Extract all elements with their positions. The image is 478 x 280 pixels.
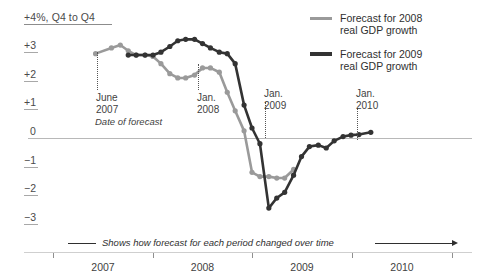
caption-text: Shows how forecast for each period chang… <box>102 237 334 248</box>
data-point <box>158 61 163 66</box>
data-point <box>134 52 139 57</box>
data-point <box>175 75 180 80</box>
data-point <box>257 141 262 146</box>
callout-label-line2: 2008 <box>197 104 219 115</box>
data-point <box>249 125 254 130</box>
data-point <box>208 45 213 50</box>
data-point <box>126 52 131 57</box>
legend-label-2008-line1: Forecast for 2008 <box>340 12 422 24</box>
x-tick-label-2010: 2010 <box>372 261 432 273</box>
data-point <box>282 190 287 195</box>
caption-rule-right <box>375 243 453 244</box>
callout-label-0: June2007 <box>96 92 118 115</box>
callout-label-line2: 2010 <box>356 100 378 111</box>
callout-label-line1: Jan. <box>197 92 216 103</box>
data-point <box>266 174 271 179</box>
callout-dotted-line-1 <box>198 64 199 90</box>
callout-dotted-line-0 <box>97 52 98 90</box>
legend-swatch-2009 <box>310 52 332 56</box>
data-point <box>233 61 238 66</box>
legend-label-2009-line1: Forecast for 2009 <box>340 48 422 60</box>
data-point <box>158 50 163 55</box>
data-point <box>175 38 180 43</box>
caption-arrow-icon <box>452 240 458 246</box>
data-point <box>118 42 123 47</box>
data-point <box>340 134 345 139</box>
data-point <box>192 72 197 77</box>
data-point <box>217 70 222 75</box>
legend-swatch-2008 <box>310 17 332 20</box>
callout-label-line1: Jan. <box>356 88 375 99</box>
callout-label-2: Jan.2009 <box>264 88 286 111</box>
data-point <box>167 44 172 49</box>
date-of-forecast-label: Date of forecast <box>95 116 162 127</box>
data-point <box>241 128 246 133</box>
data-point <box>167 71 172 76</box>
x-tick-label-2008: 2008 <box>173 261 233 273</box>
data-point <box>109 45 114 50</box>
data-point <box>183 75 188 80</box>
data-point <box>274 175 279 180</box>
data-point <box>200 41 205 46</box>
data-point <box>307 144 312 149</box>
callout-dotted-line-3 <box>357 108 358 140</box>
callout-label-1: Jan.2008 <box>197 92 219 115</box>
legend-label-2009-line2: real GDP growth <box>340 60 417 72</box>
data-point <box>332 138 337 143</box>
data-point <box>291 173 296 178</box>
chart-root: +4%, Q4 to Q4+3+2+10−1−2−3 June2007Date … <box>0 0 478 280</box>
data-point <box>348 133 353 138</box>
callout-label-line1: June <box>96 92 118 103</box>
x-axis-rule <box>24 252 472 253</box>
callout-label-line2: 2009 <box>264 100 286 111</box>
data-point <box>183 37 188 42</box>
x-tick-label-2007: 2007 <box>73 261 133 273</box>
x-tick-4 <box>452 253 453 258</box>
legend-label-2008-line2: real GDP growth <box>340 24 417 36</box>
callout-label-3: Jan.2010 <box>356 88 378 111</box>
data-point <box>150 52 155 57</box>
data-point <box>266 205 271 210</box>
callout-label-line2: 2007 <box>96 104 118 115</box>
x-tick-1 <box>153 253 154 258</box>
legend-item-2009: Forecast for 2009 real GDP growth <box>310 48 422 72</box>
data-point <box>241 103 246 108</box>
x-tick-2 <box>252 253 253 258</box>
data-point <box>249 170 254 175</box>
data-point <box>233 108 238 113</box>
data-point <box>225 51 230 56</box>
data-point <box>225 90 230 95</box>
data-point <box>316 143 321 148</box>
data-point <box>324 145 329 150</box>
data-point <box>142 52 147 57</box>
caption-rule-left <box>68 243 96 244</box>
data-point <box>274 195 279 200</box>
data-point <box>200 65 205 70</box>
data-point <box>299 154 304 159</box>
data-point <box>217 50 222 55</box>
data-point <box>208 65 213 70</box>
data-point <box>257 174 262 179</box>
x-tick-label-2009: 2009 <box>272 261 332 273</box>
x-tick-3 <box>352 253 353 258</box>
series-line <box>96 45 294 178</box>
callout-label-line1: Jan. <box>264 88 283 99</box>
data-point <box>192 37 197 42</box>
legend-label-2009: Forecast for 2009 real GDP growth <box>340 48 422 72</box>
data-point <box>368 130 373 135</box>
legend-item-2008: Forecast for 2008 real GDP growth <box>310 12 422 36</box>
data-point <box>282 175 287 180</box>
legend-label-2008: Forecast for 2008 real GDP growth <box>340 12 422 36</box>
x-tick-0 <box>53 253 54 258</box>
